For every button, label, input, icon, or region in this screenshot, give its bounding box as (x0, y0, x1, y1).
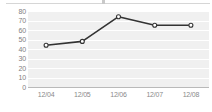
data-point-marker[interactable] (117, 15, 121, 19)
data-point-marker[interactable] (44, 43, 48, 47)
line-chart-widget: 80706050403020100 12/0412/0512/0612/0712… (0, 0, 212, 112)
series-line (46, 17, 191, 46)
data-point-marker[interactable] (153, 23, 157, 27)
data-point-marker[interactable] (80, 39, 84, 43)
series-layer (0, 0, 212, 112)
data-point-marker[interactable] (189, 23, 193, 27)
